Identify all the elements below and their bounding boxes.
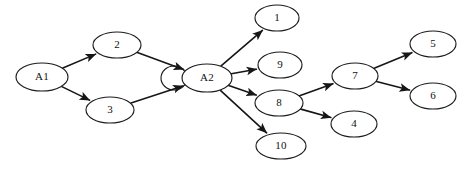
node-n2[interactable]: 2 [93,32,141,58]
node-label-n8: 8 [276,96,282,108]
node-A2[interactable]: A2 [182,64,232,92]
node-label-n4: 4 [351,117,357,129]
node-n9[interactable]: 9 [258,52,302,78]
edge-n8-to-n4 [301,109,331,117]
node-label-A2: A2 [200,71,214,83]
node-n7[interactable]: 7 [332,63,378,89]
node-label-n5: 5 [430,37,436,49]
node-label-n9: 9 [277,58,283,70]
node-A1[interactable]: A1 [16,63,68,91]
edge-n8-to-n7 [300,84,333,96]
node-label-n6: 6 [430,89,436,101]
edge-A1-to-n3 [62,87,90,100]
node-label-n2: 2 [114,38,120,50]
node-n8[interactable]: 8 [255,90,303,116]
edge-A2-to-n1 [221,30,262,65]
diagram-canvas: A123A2198107456 [0,0,467,171]
node-label-n10: 10 [275,139,287,151]
edge-n3-to-A2 [131,86,183,103]
edge-n2-to-A2 [137,52,183,69]
node-label-n7: 7 [352,69,358,81]
edge-A2-to-n9 [231,69,256,73]
node-n4[interactable]: 4 [331,111,377,137]
node-n6[interactable]: 6 [410,83,456,109]
edge-A1-to-n2 [63,54,96,68]
edge-A2-to-n8 [229,86,256,96]
node-label-A1: A1 [35,70,49,82]
node-n1[interactable]: 1 [255,5,299,31]
edge-n7-to-n5 [374,53,412,68]
node-n3[interactable]: 3 [86,97,134,123]
nodes-layer: A123A2198107456 [16,5,456,159]
graph-svg: A123A2198107456 [0,0,467,171]
node-label-n1: 1 [274,11,280,23]
node-label-n3: 3 [107,103,113,115]
edge-n7-to-n6 [376,82,409,90]
node-n5[interactable]: 5 [410,31,456,57]
node-n10[interactable]: 10 [256,133,306,159]
